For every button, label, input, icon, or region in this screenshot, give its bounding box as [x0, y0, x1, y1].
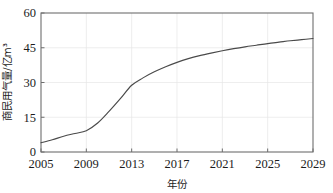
line-chart: 015304560 2005200920132017202120252029 年… — [0, 0, 333, 193]
x-axis-title: 年份 — [167, 178, 188, 190]
x-tick-label: 2025 — [255, 157, 280, 171]
y-tick-label: 30 — [24, 76, 37, 90]
y-tick-label: 45 — [24, 41, 37, 55]
y-axis-title: 商民用气量/亿m³ — [1, 43, 13, 121]
y-tick-label: 60 — [24, 6, 37, 20]
x-tick-label: 2021 — [210, 157, 235, 171]
y-axis-tick-labels: 015304560 — [24, 6, 37, 159]
gridlines — [41, 13, 313, 152]
x-tick-label: 2029 — [301, 157, 326, 171]
x-axis-tick-labels: 2005200920132017202120252029 — [29, 157, 326, 171]
chart-canvas: 015304560 2005200920132017202120252029 年… — [0, 0, 333, 193]
x-tick-label: 2017 — [165, 157, 190, 171]
x-tick-label: 2013 — [119, 157, 144, 171]
x-tick-label: 2009 — [74, 157, 99, 171]
x-tick-label: 2005 — [29, 157, 54, 171]
y-tick-label: 15 — [24, 111, 37, 125]
